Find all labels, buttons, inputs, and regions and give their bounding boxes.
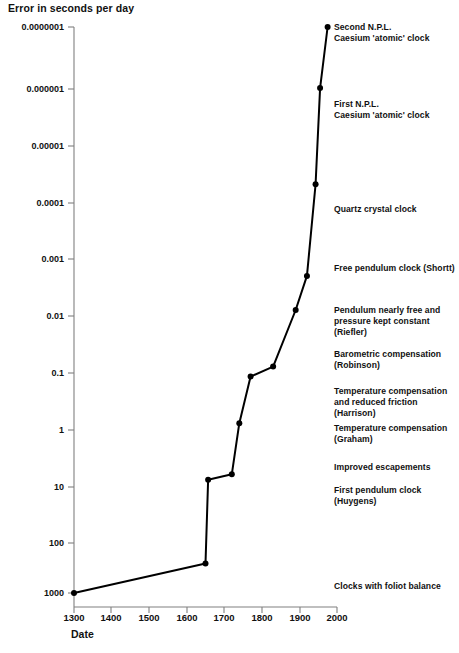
data-point-marker bbox=[248, 374, 254, 380]
y-axis-tick-label: 10 bbox=[54, 482, 64, 492]
annotation-label: Temperature compensation and reduced fri… bbox=[334, 386, 459, 419]
data-point-marker bbox=[203, 560, 209, 566]
clock-accuracy-chart: Error in seconds per day 0.00000010.0000… bbox=[0, 0, 459, 653]
x-axis-tick-label: 1700 bbox=[213, 612, 234, 623]
data-point-marker bbox=[293, 307, 299, 313]
y-axis-tick-label: 0.0000001 bbox=[21, 22, 64, 32]
x-axis-tick-label: 1300 bbox=[63, 612, 84, 623]
error-series-markers bbox=[71, 24, 331, 596]
data-point-marker bbox=[313, 181, 319, 187]
y-axis-tick-label: 0.0001 bbox=[36, 198, 64, 208]
y-axis-tick-label: 0.001 bbox=[41, 254, 64, 264]
data-point-marker bbox=[236, 420, 242, 426]
annotation-label: Second N.P.L. Caesium 'atomic' clock bbox=[334, 22, 429, 44]
x-axis-tick-label: 1400 bbox=[100, 612, 121, 623]
annotation-label: Pendulum nearly free and pressure kept c… bbox=[334, 305, 459, 338]
y-axis-tick-label: 0.1 bbox=[51, 368, 64, 378]
y-axis-tick-label: 0.000001 bbox=[26, 84, 64, 94]
x-axis-title: Date bbox=[71, 628, 94, 640]
error-series-line bbox=[74, 27, 328, 593]
annotation-label: First N.P.L. Caesium 'atomic' clock bbox=[334, 99, 429, 121]
data-point-marker bbox=[325, 24, 331, 30]
y-axis-tick-label: 100 bbox=[49, 538, 64, 548]
data-point-marker bbox=[304, 273, 310, 279]
x-axis-tick-label: 1600 bbox=[176, 612, 197, 623]
x-axis-tick-label: 1900 bbox=[289, 612, 310, 623]
data-point-marker bbox=[205, 477, 211, 483]
y-axis-tick-label: 0.01 bbox=[46, 311, 64, 321]
y-axis-tick-marks bbox=[68, 27, 74, 593]
annotation-label: First pendulum clock (Huygens) bbox=[334, 485, 459, 507]
y-axis-tick-label: 0.00001 bbox=[31, 141, 64, 151]
data-point-marker bbox=[229, 471, 235, 477]
x-axis-tick-label: 1500 bbox=[138, 612, 159, 623]
annotation-label: Temperature compensation (Graham) bbox=[334, 423, 447, 445]
axes-group bbox=[68, 27, 337, 613]
x-axis-tick-label: 1800 bbox=[251, 612, 272, 623]
annotation-label: Clocks with foliot balance bbox=[334, 581, 441, 592]
y-axis-tick-label: 1 bbox=[59, 425, 64, 435]
data-point-marker bbox=[71, 590, 77, 596]
y-axis-tick-label: 1000 bbox=[44, 588, 64, 598]
annotation-label: Quartz crystal clock bbox=[334, 204, 417, 215]
annotation-label: Barometric compensation (Robinson) bbox=[334, 349, 441, 371]
annotation-label: Improved escapements bbox=[334, 462, 431, 473]
data-series-group bbox=[71, 24, 331, 596]
data-point-marker bbox=[270, 364, 276, 370]
annotation-label: Free pendulum clock (Shortt) bbox=[334, 263, 455, 274]
data-point-marker bbox=[317, 85, 323, 91]
x-axis-tick-label: 2000 bbox=[326, 612, 347, 623]
